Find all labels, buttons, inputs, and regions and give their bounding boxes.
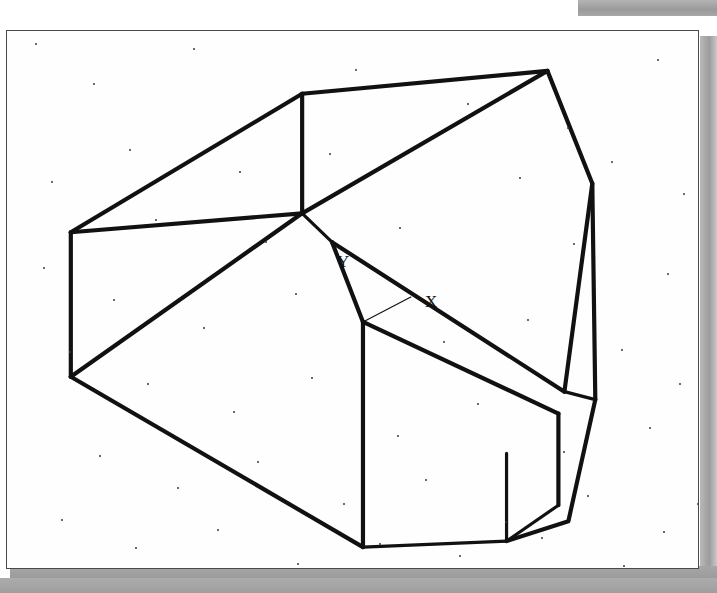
scan-noise-dot — [61, 519, 63, 521]
scan-noise-dot — [203, 327, 205, 329]
axis-label-x: X — [425, 293, 437, 310]
scan-noise-dot — [43, 267, 45, 269]
scan-noise-dot — [621, 349, 623, 351]
scan-noise-dot — [265, 241, 267, 243]
scan-noise-dot — [563, 451, 565, 453]
scan-noise-dot — [505, 521, 507, 523]
axis-label-y: Y — [337, 253, 349, 270]
edge-center-stub — [302, 213, 332, 242]
scan-noise-dot — [611, 161, 613, 163]
scan-noise-dot — [443, 341, 445, 343]
scan-noise-dot — [379, 543, 381, 545]
scan-noise-dot — [99, 455, 101, 457]
scan-noise-dot — [649, 427, 651, 429]
polyhedron-wireframe — [7, 31, 698, 568]
scan-noise-dot — [425, 479, 427, 481]
screenshot-root: Y X — [0, 0, 717, 593]
scan-noise-dot — [397, 435, 399, 437]
scan-noise-dot — [679, 383, 681, 385]
scan-noise-dot — [177, 487, 179, 489]
edge-front-bottom — [363, 541, 507, 547]
scan-noise-dot — [93, 83, 95, 85]
scan-noise-dot — [399, 227, 401, 229]
wireframe-canvas — [7, 31, 698, 568]
edge-left-bottom-long — [71, 377, 363, 547]
drawing-page: Y X — [6, 30, 699, 569]
scan-noise-dot — [355, 69, 357, 71]
scan-noise-dot — [623, 565, 625, 567]
edge-right-inner-edge — [564, 183, 592, 391]
scan-noise-dot — [239, 171, 241, 173]
scan-noise-dot — [587, 495, 589, 497]
scan-shadow-bottom-outer — [0, 578, 717, 593]
scan-noise-dot — [35, 43, 37, 45]
scan-noise-dot — [459, 555, 461, 557]
edge-right-lower-taper — [507, 400, 596, 541]
scan-noise-dot — [657, 59, 659, 61]
scan-noise-dot — [329, 153, 331, 155]
scan-noise-dot — [663, 531, 665, 533]
scan-noise-dot — [477, 403, 479, 405]
scan-noise-dot — [69, 351, 71, 353]
scan-noise-dot — [297, 563, 299, 565]
edge-upper-left-horizontal — [71, 213, 302, 232]
scan-noise-dot — [135, 547, 137, 549]
scan-noise-dot — [295, 293, 297, 295]
scan-noise-dot — [567, 127, 569, 129]
scan-noise-dot — [257, 461, 259, 463]
edge-leader-thin — [363, 297, 411, 322]
scan-noise-dot — [343, 503, 345, 505]
scan-noise-dot — [311, 377, 313, 379]
scan-noise-dot — [217, 529, 219, 531]
scan-noise-dot — [573, 243, 575, 245]
scan-noise-dot — [527, 319, 529, 321]
scan-noise-dot — [683, 193, 685, 195]
scan-noise-dot — [667, 273, 669, 275]
scan-noise-dot — [467, 103, 469, 105]
edge-mid-right-diagonal — [332, 242, 564, 391]
scan-shadow-right — [700, 36, 717, 574]
scan-noise-dot — [155, 219, 157, 221]
scan-noise-dot — [541, 537, 543, 539]
scan-shadow-top — [578, 0, 717, 16]
scan-noise-dot — [147, 383, 149, 385]
scan-noise-dot — [51, 181, 53, 183]
edge-left-lower-diagonal — [71, 213, 302, 376]
scan-noise-dot — [519, 177, 521, 179]
scan-noise-dot — [113, 299, 115, 301]
scan-noise-dot — [697, 503, 699, 505]
edge-box-bottom-right — [507, 505, 559, 541]
scan-noise-dot — [233, 411, 235, 413]
edge-upper-left-slant — [71, 94, 302, 232]
scan-noise-dot — [129, 149, 131, 151]
edge-right-cross-short — [564, 392, 595, 400]
scan-noise-dot — [193, 48, 195, 50]
